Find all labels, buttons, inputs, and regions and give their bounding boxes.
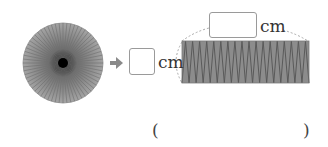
answer-blank[interactable] bbox=[166, 120, 300, 142]
width-input-box[interactable] bbox=[209, 12, 257, 38]
rearranged-rectangle-icon bbox=[182, 41, 309, 83]
height-input-box[interactable] bbox=[129, 48, 155, 75]
width-unit-label: cm bbox=[260, 18, 286, 35]
answer-open-paren: ( bbox=[152, 122, 159, 139]
arrow-right-icon bbox=[110, 57, 123, 69]
height-unit-label: cm bbox=[158, 54, 184, 71]
circle-sectors-icon bbox=[23, 23, 103, 103]
answer-close-paren: ) bbox=[303, 122, 310, 139]
